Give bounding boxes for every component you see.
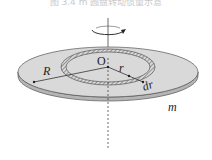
rotation-arrow-icon [92,26,126,35]
label-outer-radius: R [42,64,51,78]
disk-diagram: O R r dr m [0,0,212,160]
label-center: O [97,54,106,68]
label-ring-radius: r [119,61,124,75]
label-mass: m [168,100,177,114]
